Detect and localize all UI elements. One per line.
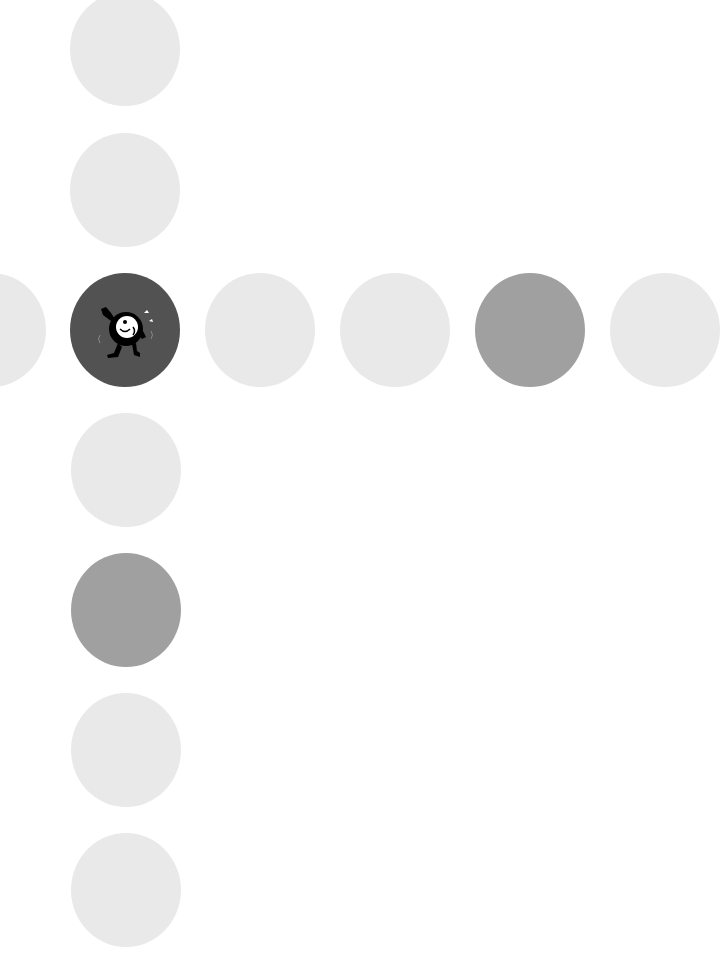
board-cell-light[interactable] [610, 273, 720, 387]
board-cell-medium[interactable] [475, 273, 585, 387]
board-cell-light[interactable] [71, 833, 181, 947]
board-cell-light[interactable] [205, 273, 315, 387]
board-cell-light[interactable] [71, 693, 181, 807]
board-cell-light[interactable] [70, 0, 180, 106]
board-cell-light[interactable] [70, 133, 180, 247]
board-cell-light[interactable] [71, 413, 181, 527]
board-cell-light[interactable] [340, 273, 450, 387]
board-cell-medium[interactable] [71, 553, 181, 667]
board-cell-dark[interactable] [70, 273, 180, 387]
board-cell-light[interactable] [0, 273, 46, 387]
running-ball-character-icon [70, 273, 180, 387]
